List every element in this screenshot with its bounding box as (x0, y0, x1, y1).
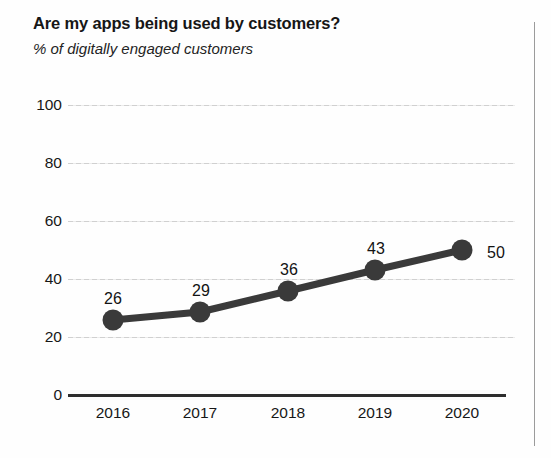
data-point-2017 (190, 302, 211, 323)
data-label-2020: 50 (487, 244, 505, 262)
series-line-group (0, 0, 551, 458)
data-point-2016 (103, 310, 124, 331)
plot-area: 100 80 60 40 20 0 2016 2017 2018 2019 20… (0, 0, 551, 458)
data-point-2018 (278, 281, 299, 302)
chart-figure: Are my apps being used by customers? % o… (0, 0, 551, 458)
data-label-2016: 26 (104, 290, 122, 308)
data-label-2019: 43 (367, 240, 385, 258)
data-label-2017: 29 (192, 282, 210, 300)
data-label-2018: 36 (280, 261, 298, 279)
data-point-2020 (452, 240, 473, 261)
data-point-2019 (365, 260, 386, 281)
page-edge-divider (534, 22, 535, 446)
